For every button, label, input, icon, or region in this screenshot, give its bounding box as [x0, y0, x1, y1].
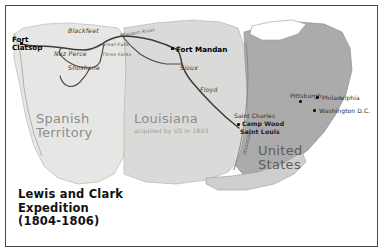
map-frame: Spanish Territory Louisiana acquired by … — [5, 5, 378, 247]
map-figure: Spanish Territory Louisiana acquired by … — [0, 0, 383, 251]
title-line-3: (1804-1806) — [18, 215, 123, 229]
philadelphia-dot-icon — [316, 96, 319, 99]
fort-mandan-marker-icon — [171, 47, 174, 50]
title-line-1: Lewis and Clark — [18, 188, 123, 202]
region-spanish-territory — [14, 23, 126, 184]
region-louisiana-purchase — [124, 20, 248, 184]
fort-clatsop-marker-icon — [20, 42, 23, 45]
title-line-2: Expedition — [18, 202, 123, 216]
map-title-block: Lewis and Clark Expedition (1804-1806) — [18, 188, 123, 229]
region-united-states — [236, 22, 352, 178]
pittsburgh-dot-icon — [299, 100, 302, 103]
camp-wood-dot-icon — [237, 123, 240, 126]
washington-dc-dot-icon — [313, 109, 316, 112]
